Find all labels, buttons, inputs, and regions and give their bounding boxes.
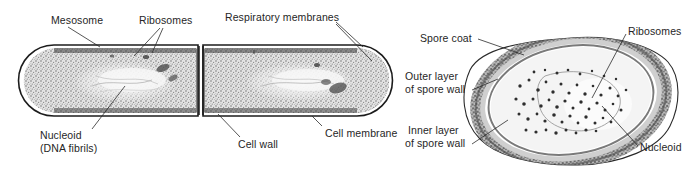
label-ribosomes-right: Ribosomes <box>628 25 681 37</box>
figure-container: Mesosome Ribosomes Respiratory membranes… <box>0 0 694 172</box>
label-inner-layer-of-spore-wall-line1: Inner layer <box>408 124 459 136</box>
leader-cell-membrane <box>312 116 322 126</box>
leader-mesosome <box>68 27 100 47</box>
leader-respiratory-a <box>336 22 363 47</box>
label-nucleoid-left: Nucleoid <box>40 129 82 141</box>
label-mesosome: Mesosome <box>51 14 103 26</box>
figure-artwork <box>0 0 694 172</box>
label-inner-layer-of-spore-wall-line2: of spore wall <box>405 137 465 149</box>
label-cell-membrane: Cell membrane <box>325 127 398 139</box>
label-outer-layer-of-spore-wall-line1: Outer layer <box>405 70 458 82</box>
leader-cell-wall <box>218 114 240 137</box>
label-outer-layer-of-spore-wall-line2: of spore wall <box>405 83 465 95</box>
label-cell-wall: Cell wall <box>238 138 278 150</box>
bacterial-cell-drawing <box>19 22 393 137</box>
bacterial-cell-a <box>19 45 198 116</box>
label-dna-fibrils: (DNA fibrils) <box>40 142 97 154</box>
bacterial-cell-b <box>203 45 392 116</box>
label-respiratory-membranes: Respiratory membranes <box>225 11 339 23</box>
label-spore-coat: Spore coat <box>420 32 472 44</box>
label-nucleoid-right: Nucleoid <box>640 141 682 153</box>
label-ribosomes-left: Ribosomes <box>139 14 192 26</box>
